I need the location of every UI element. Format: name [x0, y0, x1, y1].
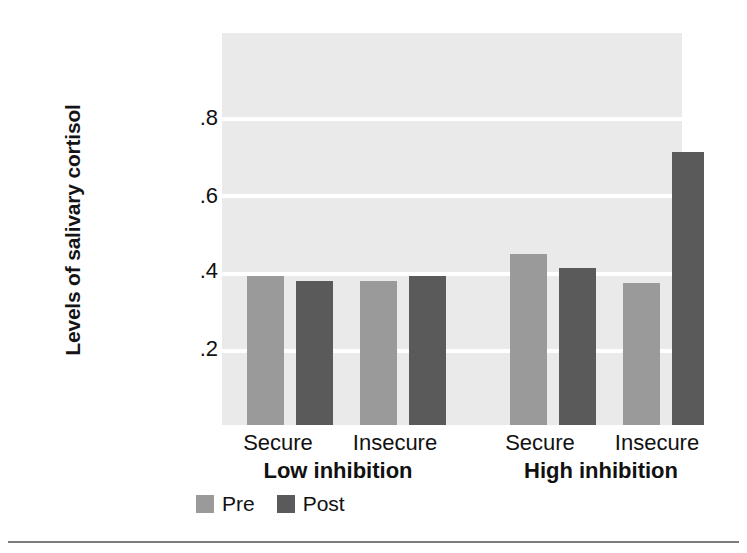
x-label-low-insecure: Insecure — [330, 430, 460, 456]
legend-item-pre: Pre — [196, 492, 255, 516]
legend-item-post: Post — [277, 492, 345, 516]
gridline-0.8 — [222, 117, 682, 121]
x-label-low-secure: Secure — [218, 430, 338, 456]
bar-low-secure-pre — [247, 276, 284, 426]
legend-swatch-pre-icon — [196, 495, 214, 513]
x-label-high-secure: Secure — [480, 430, 600, 456]
gridline-0.4 — [222, 272, 682, 276]
x-label-high-insecure: Insecure — [592, 430, 722, 456]
y-tick-0.8: .8 — [178, 105, 218, 131]
plot-area — [222, 33, 682, 425]
bar-low-insecure-post — [409, 276, 446, 426]
bar-high-insecure-pre — [623, 283, 660, 425]
bar-high-secure-pre — [510, 254, 547, 425]
legend-label-pre: Pre — [222, 492, 255, 516]
bar-low-secure-post — [296, 281, 333, 425]
legend-swatch-post-icon — [277, 495, 295, 513]
y-tick-0.4: .4 — [178, 258, 218, 284]
y-tick-0.2: .2 — [178, 336, 218, 362]
gridline-0.6 — [222, 194, 682, 198]
bar-high-secure-post — [559, 268, 596, 425]
figure-bottom-rule — [8, 541, 739, 543]
group-label-high-inhibition: High inhibition — [480, 458, 722, 484]
gridline-0.2 — [222, 349, 682, 353]
y-tick-0.6: .6 — [178, 183, 218, 209]
legend-label-post: Post — [303, 492, 345, 516]
bar-high-insecure-post — [672, 152, 704, 425]
chart-figure: Levels of salivary cortisol .8 .6 .4 .2 … — [0, 0, 747, 553]
chart-legend: Pre Post — [196, 492, 345, 516]
group-label-low-inhibition: Low inhibition — [218, 458, 458, 484]
bar-low-insecure-pre — [360, 281, 397, 425]
